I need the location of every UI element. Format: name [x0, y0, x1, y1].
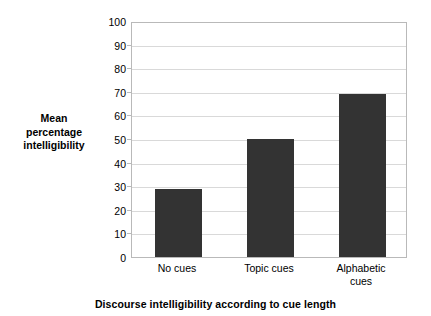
x-axis-category-label: Alphabeticcues: [315, 262, 407, 288]
plot-area: [131, 22, 407, 258]
x-axis-category-label-line: Alphabetic: [315, 262, 407, 275]
bar: [247, 139, 294, 257]
y-axis-tick-label: 90: [100, 41, 126, 51]
y-axis-tick-label: 60: [100, 111, 126, 121]
y-axis-title-line-1: Mean: [8, 112, 100, 126]
y-axis-tick-label: 40: [100, 159, 126, 169]
y-axis-title-line-3: intelligibility: [8, 139, 100, 153]
x-axis-category-labels: No cuesTopic cuesAlphabeticcues: [131, 262, 407, 296]
y-axis-title-line-2: percentage: [8, 126, 100, 140]
y-axis-tick-label: 10: [100, 229, 126, 239]
y-axis-tick-label: 30: [100, 182, 126, 192]
x-axis-title: Discourse intelligibility according to c…: [0, 298, 431, 310]
y-axis-tick-label: 70: [100, 88, 126, 98]
bar: [339, 94, 386, 257]
y-axis-tick-label: 20: [100, 206, 126, 216]
y-axis-title: Mean percentage intelligibility: [8, 112, 100, 153]
y-axis-tick-label: 100: [100, 17, 126, 27]
x-axis-category-label-line: cues: [315, 275, 407, 288]
y-axis-tick-labels: 1009080706050403020100: [96, 22, 126, 258]
gridline: [132, 46, 406, 47]
x-axis-category-label-line: Topic cues: [223, 262, 315, 275]
y-axis-tick-label: 50: [100, 135, 126, 145]
y-axis-tick-label: 0: [100, 253, 126, 263]
x-axis-category-label: Topic cues: [223, 262, 315, 275]
gridline: [132, 69, 406, 70]
x-axis-category-label: No cues: [131, 262, 223, 275]
bar-chart: Mean percentage intelligibility 10090807…: [0, 0, 431, 316]
y-axis-tick-label: 80: [100, 64, 126, 74]
x-axis-category-label-line: No cues: [131, 262, 223, 275]
bar: [155, 189, 202, 257]
